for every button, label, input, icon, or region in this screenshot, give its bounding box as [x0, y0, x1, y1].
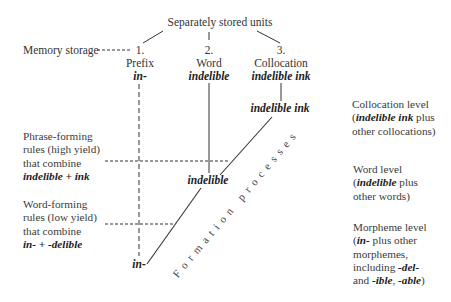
word-example-b: -delible: [48, 238, 82, 250]
connector-prefix: [143, 31, 163, 43]
word-level-example: indelible: [357, 176, 397, 188]
word-forming-line-3: that combine: [23, 225, 97, 238]
word-level-title: Word level: [353, 163, 418, 176]
column-collocation-type: Collocation: [254, 57, 308, 70]
collocation-level: Collocation level (indelible ink plus ot…: [352, 98, 436, 138]
phrase-forming-line-2: rules (high yield): [23, 143, 100, 156]
collocation-level-example: indelible ink: [356, 111, 414, 123]
collocation-level-rest: plus: [413, 111, 434, 123]
morpheme-level-title: Morpheme level: [353, 221, 427, 234]
collocation-level-title: Collocation level: [352, 98, 436, 111]
morpheme-level-example: in-: [357, 234, 370, 246]
word-level-rest: plus: [397, 176, 418, 188]
memory-storage-label: Memory storage: [23, 44, 99, 57]
word-forming-line-2: rules (low yield): [23, 211, 97, 224]
morpheme-level-rest: plus other: [370, 234, 417, 246]
column-collocation-number: 3.: [277, 44, 286, 57]
column-prefix-type: Prefix: [126, 57, 154, 70]
word-forming-example: in- + -delible: [23, 238, 97, 251]
word-forming-rules: Word-forming rules (low yield) that comb…: [23, 198, 97, 251]
morpheme-level-line2: (in- plus other: [353, 234, 427, 247]
word-level-line2: (indelible plus: [353, 176, 418, 189]
phrase-example-a: indelible: [23, 170, 63, 182]
phrase-forming-line-1: Phrase-forming: [23, 130, 100, 143]
phrase-example-b: ink: [75, 170, 90, 182]
morpheme-level: Morpheme level (in- plus other morphemes…: [353, 221, 427, 287]
phrase-forming-example: indelible + ink: [23, 170, 100, 183]
including-text: including: [353, 261, 398, 273]
column-word-example: indelible: [189, 70, 230, 83]
collocation-level-line2: (indelible ink plus: [352, 111, 436, 124]
morpheme-level-line4: including -del-: [353, 261, 427, 274]
phrase-forming-line-3: that combine: [23, 157, 100, 170]
word-plus: +: [39, 238, 45, 250]
connector-collocation: [257, 31, 280, 43]
node-in: in-: [132, 258, 145, 271]
phrase-plus: +: [66, 170, 72, 182]
word-forming-line-1: Word-forming: [23, 198, 97, 211]
title-separately-stored-units: Separately stored units: [168, 16, 273, 29]
collocation-level-line3: other collocations): [352, 125, 436, 138]
node-indelible: indelible: [188, 174, 229, 187]
node-indelible-ink: indelible ink: [250, 102, 309, 115]
word-level: Word level (indelible plus other words): [353, 163, 418, 203]
phrase-forming-rules: Phrase-forming rules (high yield) that c…: [23, 130, 100, 183]
able-example: -able: [398, 274, 421, 286]
morpheme-level-line5: and -ible, -able): [353, 274, 427, 287]
morpheme-level-line3: morphemes,: [353, 248, 427, 261]
and-text: and: [353, 274, 372, 286]
word-example-a: in-: [23, 238, 36, 250]
paren-close: ): [421, 274, 425, 286]
column-word-number: 2.: [205, 44, 214, 57]
column-prefix-number: 1.: [136, 44, 145, 57]
column-collocation-example: indelible ink: [251, 70, 310, 83]
word-level-line3: other words): [353, 190, 418, 203]
column-prefix-example: in-: [133, 70, 146, 83]
column-word-type: Word: [196, 57, 221, 70]
del-example: -del-: [398, 261, 419, 273]
ible-example: -ible: [372, 274, 393, 286]
